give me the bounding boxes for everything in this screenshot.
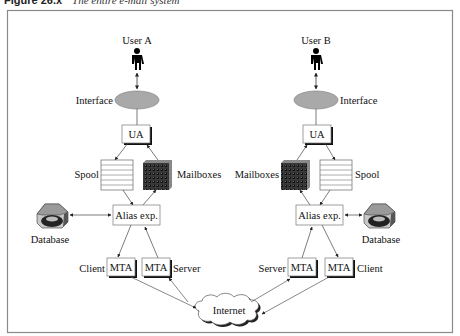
internet-servermta-a-link [169, 278, 188, 302]
servermta-alias-b-link [302, 227, 312, 258]
database-a-icon [37, 204, 68, 228]
server-mta-a-box: MTA [142, 258, 172, 278]
database-a-label: Database [31, 234, 70, 245]
alias-a-label: Alias exp. [115, 210, 158, 221]
user-b-person-icon [311, 48, 323, 70]
mailboxes-a-icon [143, 160, 172, 190]
spool-b-label: Spool [355, 169, 380, 180]
server-b-label: Server [259, 263, 287, 274]
ua-spool-a-link [115, 143, 128, 160]
client-a-label: Client [79, 263, 105, 274]
client-b-label: Client [357, 263, 383, 274]
mailbox-ua-b-link [297, 145, 307, 160]
client-mta-a-label: MTA [110, 262, 133, 273]
spool-alias-b-link [320, 190, 330, 205]
database-b-label: Database [362, 234, 401, 245]
mailboxes-b-icon [281, 160, 310, 190]
spool-a-label: Spool [74, 169, 99, 180]
spool-alias-a-link [123, 190, 133, 205]
interface-a-label: Interface [76, 95, 114, 106]
client-mta-b-label: MTA [328, 262, 351, 273]
client-mta-a-box: MTA [107, 258, 137, 278]
user-b-label: User B [301, 35, 330, 46]
left-side: User A Interface UA [31, 35, 222, 278]
client-mta-b-box: MTA [325, 258, 355, 278]
servermta-alias-a-link [145, 227, 158, 258]
interface-a-ellipse [115, 91, 159, 109]
right-side: User B Interface UA Mailboxes [235, 35, 401, 278]
spool-a-icon [101, 160, 133, 190]
clientmta-a-internet-link [131, 277, 196, 308]
spool-b-icon [320, 160, 352, 190]
ua-a-label: UA [128, 129, 144, 140]
alias-clientmta-b-link [322, 225, 338, 257]
ua-a-box: UA [122, 125, 152, 145]
database-b-icon [364, 204, 395, 228]
email-system-diagram: User A Interface UA [0, 0, 460, 336]
user-a-label: User A [122, 35, 152, 46]
alias-b-label: Alias exp. [298, 210, 341, 221]
mailboxes-b-label: Mailboxes [235, 169, 279, 180]
server-mta-b-label: MTA [291, 262, 314, 273]
interface-b-ellipse [294, 91, 338, 109]
ua-b-box: UA [303, 125, 333, 145]
ua-spool-b-link [325, 143, 335, 160]
alias-mailbox-a-link [143, 190, 156, 205]
clientmta-b-internet-link [262, 277, 329, 314]
alias-mailbox-b-link [300, 190, 310, 205]
server-a-label: Server [173, 263, 201, 274]
alias-clientmta-a-link [118, 225, 131, 257]
interface-b-label: Interface [340, 95, 378, 106]
mailbox-ua-a-link [147, 145, 158, 160]
mailboxes-a-label: Mailboxes [177, 169, 221, 180]
internet-servermta-b-link [251, 279, 290, 302]
internet-label: Internet [213, 305, 246, 316]
server-mta-a-label: MTA [145, 262, 168, 273]
server-mta-b-box: MTA [288, 258, 318, 278]
ua-b-label: UA [309, 129, 325, 140]
user-a-person-icon [132, 48, 144, 70]
internet-cloud: Internet [195, 293, 260, 327]
